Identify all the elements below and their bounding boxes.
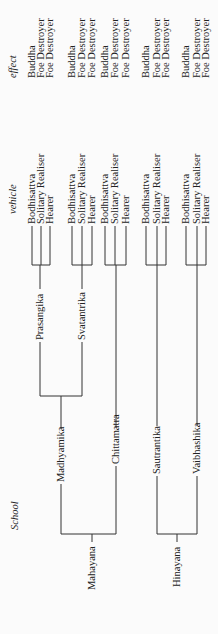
school-sautrantika: Sautrantika — [152, 426, 162, 474]
school-vaibhashika: Vaibhashika — [192, 423, 202, 474]
vehicle-hearer: Hearer — [161, 195, 171, 224]
vehicle-bodhisattva: Bodhisattva — [141, 174, 151, 224]
tree-connector-lines — [0, 0, 218, 634]
header-vehicle: vehicle — [8, 184, 18, 214]
vehicle-hearer: Hearer — [87, 195, 97, 224]
header-effect: effect — [8, 55, 18, 78]
effect-foe-destroyer: Foe Destroyer — [110, 18, 120, 78]
school-madhyamika: Madhyamika — [56, 427, 66, 482]
vehicle-solitary-realiser: Solitary Realiser — [110, 154, 120, 224]
effect-foe-destroyer: Foe Destroyer — [161, 18, 171, 78]
effect-foe-destroyer: Foe Destroyer — [121, 18, 131, 78]
school-prasangika: Prasangika — [35, 294, 45, 340]
effect-buddha: Buddha — [141, 45, 151, 78]
school-mahayana: Mahayana — [87, 546, 97, 590]
school-chittamatra: Chittamatra — [111, 414, 121, 464]
effect-foe-destroyer: Foe Destroyer — [201, 18, 211, 78]
effect-buddha: Buddha — [181, 45, 191, 78]
header-school: School — [10, 501, 20, 530]
vehicle-hearer: Hearer — [45, 195, 55, 224]
school-tree-diagram: School vehicle effect Mahayana Hinayana … — [0, 0, 218, 634]
vehicle-hearer: Hearer — [121, 195, 131, 224]
effect-foe-destroyer: Foe Destroyer — [87, 18, 97, 78]
effect-foe-destroyer: Foe Destroyer — [45, 18, 55, 78]
vehicle-bodhisattva: Bodhisattva — [181, 174, 191, 224]
vehicle-hearer: Hearer — [201, 195, 211, 224]
school-hinayana: Hinayana — [172, 547, 182, 587]
school-svatantrika: Svatantrika — [77, 292, 87, 340]
